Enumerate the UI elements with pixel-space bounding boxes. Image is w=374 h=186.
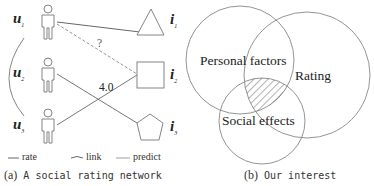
caption-a: (a) A social rating network (4, 168, 162, 183)
rate-edge-u2-i3 (57, 74, 137, 123)
person-icon-u1 (42, 5, 54, 39)
item-label-i3: i3 (170, 118, 177, 136)
venn-label-rating: Rating (295, 68, 331, 84)
square-icon-i2 (137, 62, 164, 88)
caption-b: (b) Our interest (244, 168, 336, 183)
predict-edge-label: ? (97, 37, 102, 49)
triangle-icon-i1 (137, 9, 164, 35)
rate-edge-u1-i1 (57, 22, 140, 32)
pentagon-icon-i3 (137, 114, 163, 140)
legend-rate: rate (22, 151, 37, 162)
rate-edge-label: 4.0 (99, 81, 113, 93)
legend-predict: predict (133, 151, 161, 162)
rate-edge-u3-i2 (57, 75, 137, 125)
predict-edge-u1-i2 (57, 24, 137, 74)
person-icon-u3 (42, 109, 54, 143)
venn-label-personal-factors: Personal factors (200, 53, 287, 69)
user-label-u1: u1 (13, 10, 24, 28)
venn-label-social-effects: Social effects (222, 113, 295, 129)
legend-link: link (86, 151, 102, 162)
diagram-canvas (0, 0, 374, 186)
user-label-u3: u3 (13, 116, 24, 134)
item-label-i1: i1 (170, 11, 177, 29)
person-icon-u2 (42, 58, 54, 92)
item-label-i2: i2 (170, 66, 177, 84)
user-label-u2: u2 (13, 64, 24, 82)
